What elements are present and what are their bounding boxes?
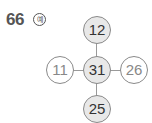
- circle-right: 26: [120, 56, 148, 84]
- problem-number: 66: [6, 10, 24, 30]
- circle-top: 12: [83, 16, 111, 44]
- circle-center: 31: [83, 56, 111, 84]
- circle-left: 11: [46, 56, 74, 84]
- example-mark: 예: [33, 13, 46, 26]
- circle-bottom: 25: [83, 95, 111, 123]
